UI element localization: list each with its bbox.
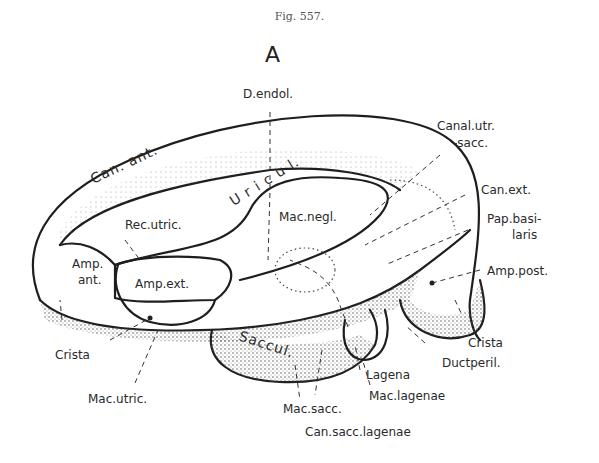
label-pap-basilaris-2: laris: [512, 229, 537, 242]
label-can-ext: Can.ext.: [481, 184, 531, 197]
label-mac-sacc: Mac.sacc.: [283, 403, 342, 416]
label-canal-utr-sacc-2: -sacc.: [453, 137, 488, 150]
label-amp-ant-2: ant.: [78, 274, 101, 287]
label-rec-utric: Rec.utric.: [125, 219, 182, 232]
label-canal-utr-sacc: Canal.utr.: [437, 120, 495, 133]
label-can-sacc-lagenae: Can.sacc.lagenae: [305, 426, 411, 439]
label-mac-negl: Mac.negl.: [279, 211, 337, 224]
amp-ext-outline: [116, 265, 215, 325]
label-amp-ant: Amp.: [72, 258, 103, 271]
label-crista-right: Crista: [468, 337, 503, 350]
label-amp-ext: Amp.ext.: [135, 278, 189, 291]
label-crista-left: Crista: [55, 349, 90, 362]
label-mac-utric: Mac.utric.: [88, 393, 147, 406]
label-lagena: Lagena: [366, 369, 410, 382]
label-ductperil: Ductperil.: [442, 357, 501, 370]
label-amp-post: Amp.post.: [487, 265, 548, 278]
label-mac-lagenae: Mac.lagenae: [369, 390, 445, 403]
label-d-endol: D.endol.: [243, 88, 293, 101]
label-pap-basilaris: Pap.basi-: [487, 213, 541, 226]
